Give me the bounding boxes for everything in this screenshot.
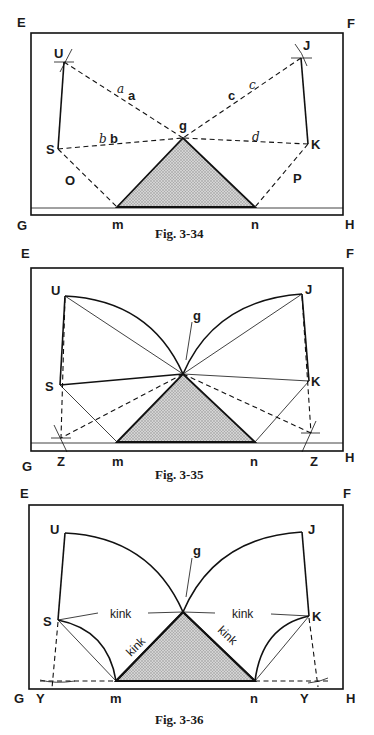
- label-corner-e: E: [20, 486, 29, 501]
- label-corner-h: H: [346, 691, 355, 706]
- leader-g: [186, 558, 192, 597]
- edge-u-s: [58, 533, 65, 620]
- label-point-k: K: [312, 609, 322, 624]
- label-point-g: g: [193, 308, 201, 323]
- label-point-m: m: [112, 217, 124, 232]
- label-segment-o: O: [65, 173, 75, 188]
- caption-fig-3-35: Fig. 3-35: [155, 467, 204, 482]
- dash-s-y-left: [52, 622, 58, 688]
- tick-z-right-arc: [302, 421, 316, 452]
- label-point-z-left: Z: [57, 454, 65, 469]
- label-corner-e: E: [21, 246, 30, 261]
- label-point-g: g: [179, 118, 187, 133]
- shaded-triangle: [117, 374, 255, 442]
- arc-u-g: [65, 533, 183, 612]
- chord-s-m: [58, 620, 116, 681]
- label-point-j: J: [305, 282, 312, 297]
- label-corner-g: G: [14, 691, 24, 706]
- label-corner-f: F: [343, 486, 351, 501]
- label-point-n: n: [251, 217, 259, 232]
- edge-j-k: [302, 532, 309, 616]
- label-corner-h: H: [345, 217, 354, 232]
- label-point-z-right: Z: [310, 454, 318, 469]
- label-segment-a: a: [128, 88, 136, 103]
- dash-s-g: [58, 138, 183, 149]
- label-corner-g: G: [22, 459, 32, 474]
- label-segment-c: c: [228, 88, 235, 103]
- label-point-k: K: [311, 137, 321, 152]
- leader-kink-right-g: [183, 612, 215, 613]
- edge-j-k: [301, 58, 308, 144]
- chord-j-g: [183, 294, 302, 374]
- figure-3-34: E F G H U J S K g m n a a b b c c d O P …: [17, 15, 355, 241]
- figure-3-35: E F G H U J S K g m n Z Z Fig. 3-35: [21, 246, 354, 482]
- label-point-m: m: [110, 691, 122, 706]
- label-point-m: m: [112, 454, 124, 469]
- label-hand-a: a: [117, 82, 124, 96]
- label-corner-h: H: [345, 450, 354, 465]
- label-corner-f: F: [347, 16, 355, 31]
- tick-z-left-arc: [54, 425, 67, 452]
- label-kink-right-diag: kink: [215, 623, 241, 648]
- diagram-canvas: E F G H U J S K g m n a a b b c c d O P …: [0, 0, 374, 735]
- chord-u-g: [65, 296, 183, 374]
- label-point-u: U: [54, 46, 63, 61]
- leader-kink-left-g: [148, 612, 183, 613]
- label-kink-right: kink: [232, 607, 254, 621]
- edge-u-s: [58, 62, 64, 149]
- label-point-y-right: Y: [300, 691, 309, 706]
- label-point-y-left: Y: [36, 691, 45, 706]
- dash-j-g: [183, 58, 301, 138]
- label-point-u: U: [50, 522, 59, 537]
- label-point-n: n: [250, 691, 258, 706]
- label-point-s: S: [45, 379, 54, 394]
- label-point-j: J: [308, 522, 315, 537]
- leader-kink-right-k: [271, 614, 309, 616]
- dash-u-g: [64, 62, 183, 138]
- dash-k-g: [183, 138, 308, 144]
- label-hand-b: b: [99, 132, 107, 146]
- label-point-k: K: [311, 374, 321, 389]
- dash-k-y-right: [309, 618, 318, 687]
- label-point-n: n: [250, 454, 258, 469]
- label-corner-g: G: [17, 218, 27, 233]
- caption-fig-3-34: Fig. 3-34: [155, 226, 204, 241]
- label-segment-p: P: [293, 171, 302, 186]
- shaded-triangle: [117, 138, 255, 207]
- label-segment-b: b: [110, 131, 118, 146]
- label-point-j: J: [303, 38, 310, 53]
- label-hand-d: d: [252, 130, 260, 144]
- label-kink-left: kink: [110, 607, 132, 621]
- leader-g: [186, 322, 192, 360]
- label-corner-f: F: [346, 246, 354, 261]
- leader-kink-left-s: [58, 613, 98, 620]
- caption-fig-3-36: Fig. 3-36: [155, 712, 204, 727]
- figure-3-36: E F G H U J S K g m n Y Y kink kink kink…: [14, 486, 355, 727]
- label-point-s: S: [43, 614, 52, 629]
- label-point-s: S: [46, 142, 55, 157]
- edge-k-g: [183, 374, 309, 381]
- label-point-g: g: [193, 543, 201, 558]
- label-point-u: U: [51, 283, 60, 298]
- chord-k-n: [255, 616, 309, 681]
- dash-j-z-right: [302, 296, 311, 433]
- label-corner-e: E: [17, 15, 26, 30]
- label-hand-c: c: [249, 78, 256, 92]
